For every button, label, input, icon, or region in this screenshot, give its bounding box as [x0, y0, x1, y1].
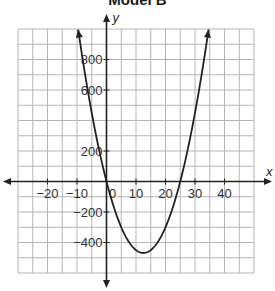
axes: xy	[3, 10, 273, 288]
x-axis-left-arrow-icon	[3, 178, 11, 185]
x-tick-label: 30	[188, 186, 202, 201]
x-tick-label: 20	[158, 186, 172, 201]
x-tick-label: −10	[66, 186, 88, 201]
x-tick-label: 10	[129, 186, 143, 201]
x-axis-label: x	[265, 164, 273, 179]
x-tick-label: 40	[217, 186, 231, 201]
y-tick-label: −400	[73, 235, 102, 250]
y-axis-up-arrow-icon	[103, 14, 110, 22]
y-axis-down-arrow-icon	[103, 280, 110, 288]
x-axis-right-arrow-icon	[264, 178, 272, 185]
x-tick-label: −20	[36, 186, 58, 201]
y-tick-label: 600	[81, 83, 103, 98]
grid	[18, 29, 254, 273]
y-tick-label: −200	[73, 205, 102, 220]
y-axis-label: y	[112, 10, 121, 25]
parabola-chart: xy −20−10010203040800600200−200−400	[0, 0, 275, 291]
